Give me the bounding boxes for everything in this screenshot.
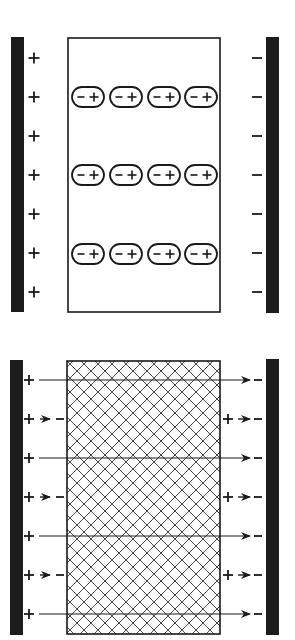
left-plate-bottom	[10, 360, 23, 635]
dipole	[148, 87, 180, 107]
dipole	[72, 87, 104, 107]
dipole	[72, 244, 104, 264]
dipole	[148, 244, 180, 264]
dipole	[185, 165, 217, 185]
left-plate-top	[11, 37, 24, 312]
dipole	[185, 87, 217, 107]
left-bound-charge-arrow	[24, 492, 64, 502]
left-bound-charge-arrow	[24, 570, 64, 580]
dipole	[185, 244, 217, 264]
dipole	[148, 165, 180, 185]
dipole	[110, 244, 142, 264]
dipole	[110, 165, 142, 185]
top-panel	[11, 37, 279, 313]
dielectric-slab-bottom	[67, 361, 220, 634]
capacitor-dielectric-diagram	[0, 0, 295, 640]
right-plate-bottom	[266, 359, 279, 635]
left-bound-charge-arrow	[24, 414, 64, 424]
right-bound-charge-arrow	[223, 414, 262, 424]
dipole	[72, 165, 104, 185]
bottom-panel	[10, 359, 279, 635]
dipole	[110, 87, 142, 107]
right-bound-charge-arrow	[223, 492, 262, 502]
right-plate-charges	[252, 58, 262, 292]
right-bound-charge-arrow	[223, 570, 262, 580]
right-plate-top	[266, 37, 279, 313]
left-plate-charges	[29, 53, 40, 298]
